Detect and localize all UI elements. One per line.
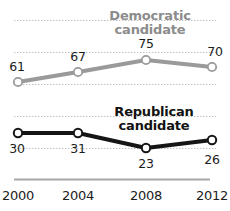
democratic-point-2008 xyxy=(142,56,150,64)
republican-point-2012 xyxy=(208,136,216,144)
democratic-point-2000 xyxy=(14,78,22,86)
democratic-point-2004 xyxy=(74,68,82,76)
value-label-democratic-2008: 75 xyxy=(131,36,161,51)
value-label-democratic-2012: 70 xyxy=(200,44,230,59)
legend-republican-candidate: Republican candidate xyxy=(108,105,200,133)
republican-point-2008 xyxy=(142,144,150,152)
value-label-democratic-2004: 67 xyxy=(63,49,93,64)
legend-republican-line1: Republican xyxy=(108,105,200,119)
x-tick-2008: 2008 xyxy=(124,188,168,203)
republican-line xyxy=(18,133,212,148)
value-label-republican-2004: 31 xyxy=(63,141,93,156)
value-label-democratic-2000: 61 xyxy=(2,59,32,74)
republican-point-2000 xyxy=(14,129,22,137)
chart-container: Democratic candidate Republican candidat… xyxy=(0,0,230,211)
value-label-republican-2008: 23 xyxy=(131,156,161,171)
legend-democratic-line1: Democratic xyxy=(104,9,196,23)
legend-republican-line2: candidate xyxy=(108,119,200,133)
democratic-point-2012 xyxy=(208,63,216,71)
x-tick-2012: 2012 xyxy=(190,188,230,203)
series-democratic xyxy=(14,56,216,86)
x-tick-2000: 2000 xyxy=(0,188,40,203)
value-label-republican-2012: 26 xyxy=(197,152,227,167)
legend-democratic-candidate: Democratic candidate xyxy=(104,9,196,37)
republican-point-2004 xyxy=(74,129,82,137)
legend-democratic-line2: candidate xyxy=(104,23,196,37)
x-tick-2004: 2004 xyxy=(56,188,100,203)
value-label-republican-2000: 30 xyxy=(2,141,32,156)
democratic-line xyxy=(18,60,212,82)
